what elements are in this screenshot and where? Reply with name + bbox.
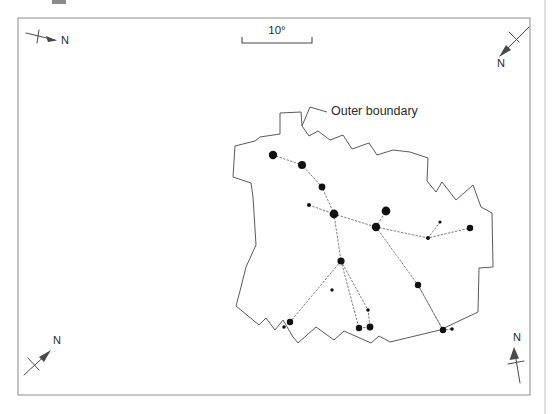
compass-north-label: N — [497, 57, 505, 69]
star-08 — [438, 220, 441, 223]
star-19 — [450, 327, 454, 331]
figure-root: 10° N N N N Outer boundary — [0, 0, 552, 414]
outer-boundary-label: Outer boundary — [331, 104, 419, 118]
star-02 — [298, 161, 306, 169]
star-18 — [440, 327, 446, 333]
compass-north-label: N — [61, 34, 69, 46]
star-16 — [366, 308, 370, 312]
scale-bar-label: 10° — [268, 24, 285, 36]
star-04 — [307, 203, 311, 207]
star-12 — [415, 282, 421, 288]
star-11 — [337, 257, 344, 264]
star-05 — [330, 210, 339, 219]
star-09 — [426, 236, 430, 240]
star-13 — [287, 319, 293, 325]
star-10 — [467, 225, 473, 231]
star-14 — [282, 325, 286, 329]
star-06 — [382, 207, 391, 216]
compass-north-label: N — [53, 334, 61, 346]
star-15 — [356, 325, 362, 331]
star-07 — [372, 223, 380, 231]
star-01 — [269, 151, 277, 159]
compass-north-label: N — [513, 331, 521, 343]
star-chart-canvas: 10° N N N N Outer boundary — [0, 0, 552, 414]
figure-frame — [18, 18, 530, 395]
star-17 — [367, 324, 374, 331]
crop-mark — [52, 0, 66, 4]
star-20 — [330, 288, 333, 291]
star-03 — [319, 184, 326, 191]
